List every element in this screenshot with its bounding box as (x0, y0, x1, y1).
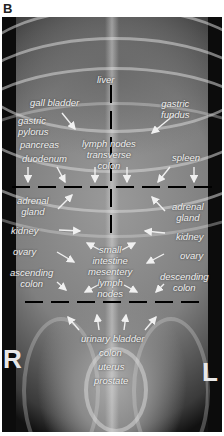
label-pancreas: pancreas (20, 139, 59, 150)
label-uterus: uterus (98, 361, 124, 372)
label-duodenum: duodenum (22, 153, 67, 164)
label-gall-bladder: gall bladder (30, 97, 79, 108)
urinary-bladder-arrow-2 (97, 315, 99, 330)
gall-bladder-arrow (62, 113, 75, 129)
adrenal-left-arrow (152, 197, 165, 211)
spleen-arrow-left (158, 167, 170, 182)
label-lymph-nodes-transverse-colon: lymph nodes transverse colon (82, 138, 136, 171)
ovary-right-arrow (57, 252, 74, 262)
left-side-marker: L (202, 357, 218, 388)
label-colon: colon (99, 347, 122, 358)
adrenal-right-arrow (58, 195, 72, 209)
ascending-colon-arrow (57, 282, 66, 290)
label-gastric-pylorus: gastric pylorus (18, 115, 49, 137)
panel-letter: B (3, 1, 12, 16)
label-kidney-right: kidney (11, 225, 38, 236)
duodenum-arrow-right (57, 167, 65, 182)
label-kidney-left: kidney (176, 231, 203, 242)
urinary-bladder-arrow-4 (145, 317, 156, 330)
urinary-bladder-arrow-1 (68, 317, 79, 330)
label-prostate: prostate (94, 375, 128, 386)
label-ascending-colon: ascending colon (10, 267, 53, 289)
right-side-marker: R (3, 344, 22, 375)
label-adrenal-gland-left: adrenal gland (172, 201, 204, 223)
label-ovary-right: ovary (13, 246, 36, 257)
label-liver: liver (97, 74, 114, 85)
label-urinary-bladder: urinary bladder (81, 333, 144, 344)
abdominal-radiograph: liver gall bladder gastric fundus gastri… (2, 17, 222, 432)
kidney-right-arrow (59, 230, 80, 231)
urinary-bladder-arrow-3 (124, 315, 126, 330)
label-gastric-fundus: gastric fundus (161, 98, 190, 120)
ovary-left-arrow (147, 254, 164, 263)
label-ovary-left: ovary (180, 250, 203, 261)
label-spleen: spleen (172, 152, 200, 163)
label-descending-colon: descending colon (160, 271, 209, 293)
kidney-left-arrow (145, 231, 165, 233)
label-small-intestine-mesentery-lymph-nodes: small intestine mesentery lymph nodes (88, 244, 132, 299)
label-adrenal-gland-right: adrenal gland (17, 195, 49, 217)
